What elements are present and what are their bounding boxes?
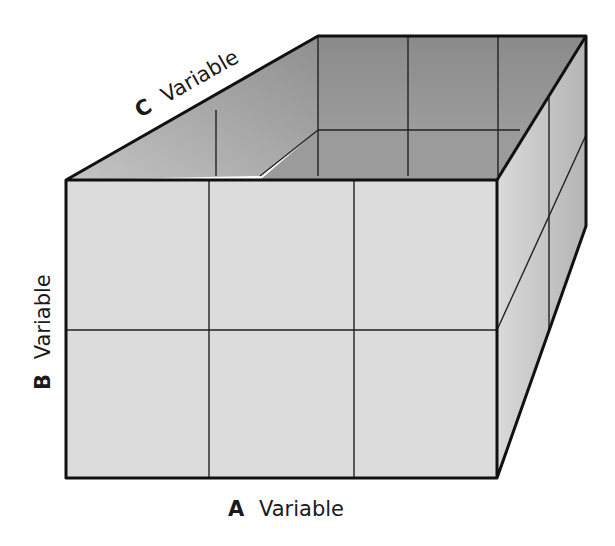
a-variable-label: A Variable xyxy=(228,497,344,521)
b-word: Variable xyxy=(31,274,55,359)
b-letter: B xyxy=(31,374,55,390)
front-face xyxy=(66,180,497,478)
c-letter: C xyxy=(131,94,156,122)
a-letter: A xyxy=(228,497,245,521)
factorial-cube-diagram: C Variable B Variable A Variable xyxy=(0,0,615,546)
a-word: Variable xyxy=(259,497,344,521)
b-variable-label: B Variable xyxy=(31,274,55,390)
svg-text:B Variable: B Variable xyxy=(31,274,55,390)
